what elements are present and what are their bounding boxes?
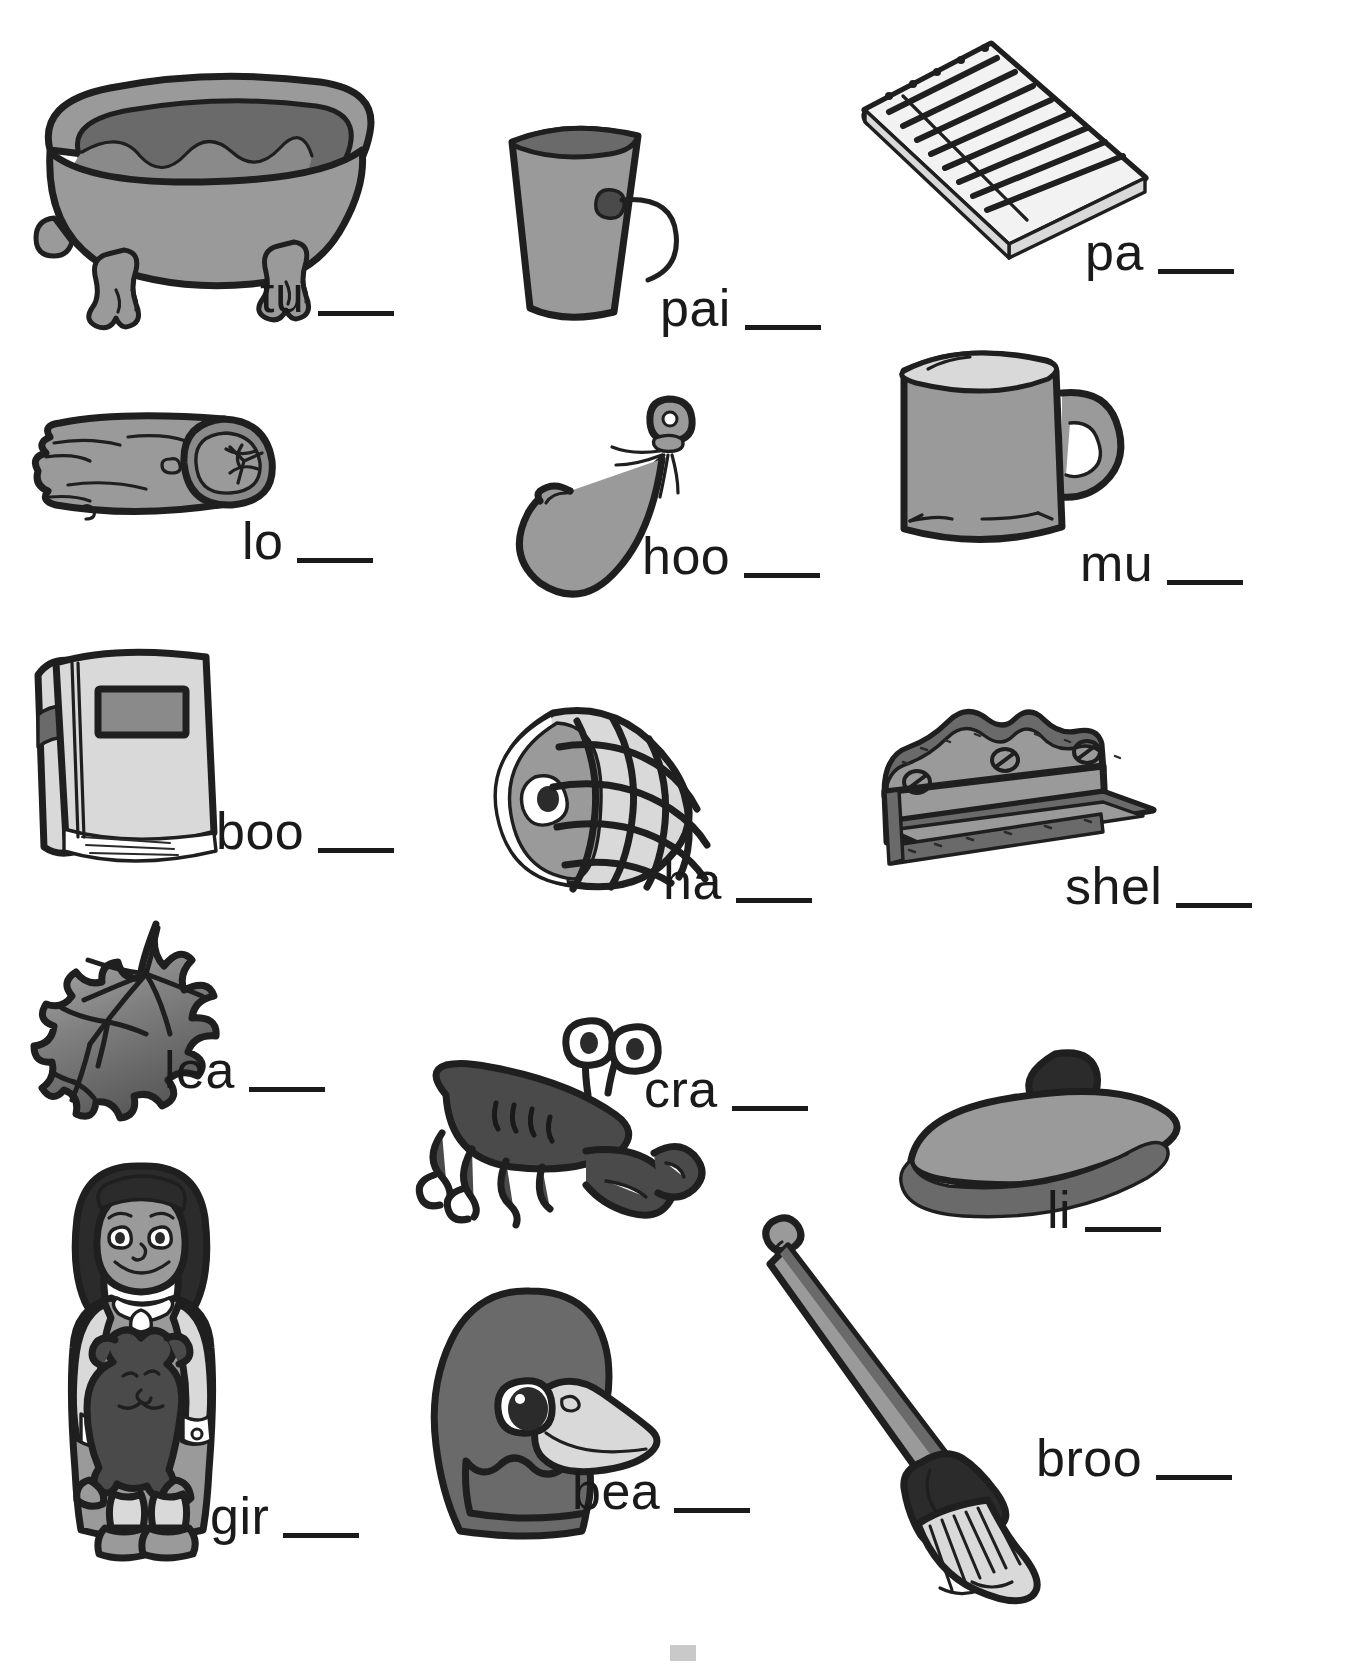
item-prefix-log: lo (242, 512, 283, 570)
item-label-mug: mu (1080, 537, 1243, 589)
item-blank-leaf[interactable] (249, 1087, 325, 1092)
item-prefix-ham: ha (663, 852, 722, 910)
item-blank-log[interactable] (297, 558, 373, 563)
item-prefix-broom: broo (1036, 1429, 1142, 1487)
leaf-icon (40, 910, 260, 1140)
broom-icon (740, 1180, 1140, 1580)
item-label-ham: ha (663, 855, 812, 907)
item-label-leaf: lea (164, 1044, 325, 1096)
item-prefix-pail: pai (660, 279, 731, 337)
item-blank-tub[interactable] (318, 311, 394, 316)
item-label-shelf: shel (1065, 860, 1252, 912)
item-prefix-book: boo (216, 802, 304, 860)
item-prefix-hook: hoo (642, 527, 730, 585)
item-label-tub: tu (260, 268, 394, 320)
item-blank-beak[interactable] (674, 1508, 750, 1513)
item-prefix-pad: pa (1085, 223, 1144, 281)
item-prefix-mug: mu (1080, 534, 1153, 592)
item-label-hook: hoo (642, 530, 820, 582)
item-label-crab: cra (644, 1063, 808, 1115)
item-label-broom: broo (1036, 1432, 1232, 1484)
item-blank-shelf[interactable] (1176, 903, 1252, 908)
item-blank-girl[interactable] (283, 1533, 359, 1538)
item-label-log: lo (242, 515, 373, 567)
bathtub-icon (20, 40, 380, 290)
item-label-girl: gir (210, 1490, 359, 1542)
item-blank-ham[interactable] (736, 898, 812, 903)
item-label-beak: bea (572, 1465, 750, 1517)
item-prefix-crab: cra (644, 1060, 718, 1118)
item-prefix-beak: bea (572, 1462, 660, 1520)
item-prefix-girl: gir (210, 1487, 269, 1545)
item-prefix-shelf: shel (1065, 857, 1162, 915)
item-blank-hook[interactable] (744, 573, 820, 578)
item-blank-broom[interactable] (1156, 1475, 1232, 1480)
item-blank-book[interactable] (318, 848, 394, 853)
item-blank-pail[interactable] (745, 325, 821, 330)
item-label-pad: pa (1085, 226, 1234, 278)
item-blank-crab[interactable] (732, 1106, 808, 1111)
item-label-book: boo (216, 805, 394, 857)
item-blank-pad[interactable] (1158, 269, 1234, 274)
page-footer-mark (670, 1645, 696, 1661)
item-prefix-leaf: lea (164, 1041, 235, 1099)
item-blank-mug[interactable] (1167, 580, 1243, 585)
item-label-pail: pai (660, 282, 821, 334)
item-prefix-tub: tu (260, 265, 304, 323)
wall-shelf-icon (875, 700, 1165, 880)
worksheet-page: tu pai (0, 0, 1366, 1675)
